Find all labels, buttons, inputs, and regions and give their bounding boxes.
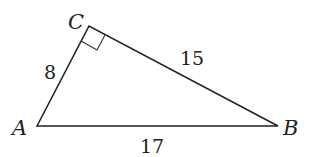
vertex-label-b: B [282,116,298,140]
vertex-label-c: C [68,10,84,34]
side-label-ac: 8 [44,61,56,83]
vertex-label-a: A [10,116,27,140]
side-label-cb: 15 [180,47,204,69]
triangle-abc [37,26,278,126]
side-label-ab: 17 [140,135,164,157]
right-angle-marker [81,35,105,50]
triangle-diagram: C A B 8 15 17 [0,0,314,157]
